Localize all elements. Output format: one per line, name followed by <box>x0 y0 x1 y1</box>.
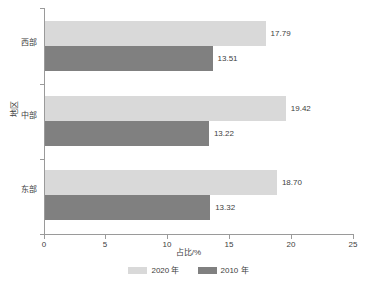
y-category-label-west: 西部 <box>14 38 44 48</box>
bar-chart: 地区 西部 中部 东部 0 5 10 15 20 25 17.79 13.51 <box>0 0 377 287</box>
x-axis-tick-5 <box>105 235 106 239</box>
bar-value-east-2010: 13.32 <box>215 203 235 213</box>
legend-item-2020[interactable]: 2020 年 <box>128 266 179 275</box>
bar-central-2010[interactable] <box>45 121 209 146</box>
bar-value-west-2020: 17.79 <box>271 29 291 39</box>
x-axis-tick-25 <box>353 235 354 239</box>
bar-value-central-2020: 19.42 <box>291 104 311 114</box>
y-axis-title: 地区 <box>10 89 19 129</box>
x-axis-tick-10 <box>167 235 168 239</box>
bar-value-central-2010: 13.22 <box>214 129 234 139</box>
x-axis-line <box>44 234 354 235</box>
y-axis-tick-0 <box>40 8 44 9</box>
x-axis-tick-20 <box>291 235 292 239</box>
legend-label-2010: 2010 年 <box>221 266 249 275</box>
bar-east-2020[interactable] <box>45 170 277 195</box>
y-axis-tick-2 <box>40 159 44 160</box>
bar-west-2010[interactable] <box>45 46 213 71</box>
y-axis-tick-1 <box>40 84 44 85</box>
x-axis-title: 占比/% <box>0 248 377 258</box>
legend-label-2020: 2020 年 <box>151 266 179 275</box>
chart-legend: 2020 年 2010 年 <box>0 266 377 275</box>
bar-value-west-2010: 13.51 <box>218 54 238 64</box>
bar-east-2010[interactable] <box>45 195 210 220</box>
x-axis-tick-15 <box>229 235 230 239</box>
legend-item-2010[interactable]: 2010 年 <box>198 266 249 275</box>
legend-swatch-icon-2020 <box>128 267 147 274</box>
legend-swatch-icon-2010 <box>198 267 217 274</box>
x-axis-tick-0 <box>44 235 45 239</box>
bar-central-2020[interactable] <box>45 96 286 121</box>
bar-west-2020[interactable] <box>45 21 266 46</box>
bar-value-east-2020: 18.70 <box>282 178 302 188</box>
y-category-label-central: 中部 <box>14 111 44 121</box>
plot-area: 0 5 10 15 20 25 17.79 13.51 19.42 13.22 … <box>44 8 354 235</box>
y-category-label-east: 东部 <box>14 185 44 195</box>
